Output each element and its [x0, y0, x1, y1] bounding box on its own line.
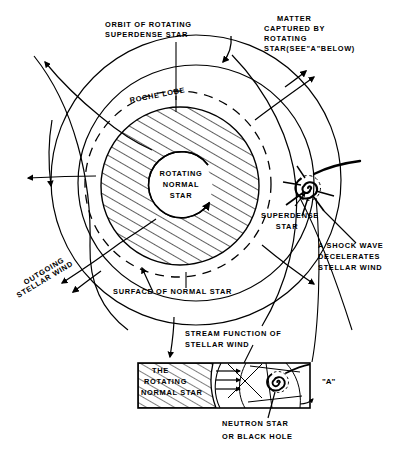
stream-function-label-line1: STREAM FUNCTION OF — [185, 329, 281, 339]
stream-curve-upper-left — [45, 62, 101, 117]
normal-star-label-line3: STAR — [152, 191, 210, 201]
inset-star-label-line3: NORMAL STAR — [141, 388, 203, 398]
shock-wave-label-line2: DECELERATES — [318, 252, 380, 262]
stream-curve-left — [28, 176, 96, 178]
leader-orbit-arrow — [223, 36, 231, 62]
matter-label-line2: CAPTURED BY — [264, 24, 325, 34]
inset-star-label-line2: ROTATING — [144, 377, 187, 387]
normal-star-label-line1: ROTATING — [152, 169, 210, 179]
superdense-star-glyph — [283, 161, 360, 216]
orbit-label-line2: SUPERDENSE STAR — [105, 30, 188, 40]
matter-label-line3: ROTATING — [264, 34, 307, 44]
stream-function-label-line2: STELLAR WIND — [185, 340, 249, 350]
surface-of-normal-star-label: SURFACE OF NORMAL STAR — [113, 287, 232, 297]
superdense-star-label-line2: STAR — [261, 222, 313, 232]
inset-star-label-line1: THE — [152, 366, 169, 376]
figure-root: ORBIT OF ROTATING SUPERDENSE STAR MATTER… — [0, 0, 419, 457]
inset-tag-label: "A" — [322, 377, 335, 387]
diagram-canvas — [0, 0, 419, 457]
capture-stream-upper — [255, 77, 314, 120]
shock-wave-label-line3: STELLAR WIND — [318, 263, 382, 273]
neutron-star-label-line2: OR BLACK HOLE — [222, 432, 293, 442]
neutron-star-label-line1: NEUTRON STAR — [222, 419, 289, 429]
orbit-label-line1: ORBIT OF ROTATING — [105, 20, 192, 30]
matter-label-line1: MATTER — [277, 14, 311, 24]
leader-inset-connector — [312, 198, 319, 362]
normal-star-label-line2: NORMAL — [152, 180, 210, 190]
matter-label-line4: STAR(SEE"A"BELOW) — [264, 44, 355, 54]
shock-wave-label-line1: A SHOCK WAVE — [318, 241, 383, 251]
superdense-star-label-line1: SUPERDENSE — [261, 211, 319, 221]
